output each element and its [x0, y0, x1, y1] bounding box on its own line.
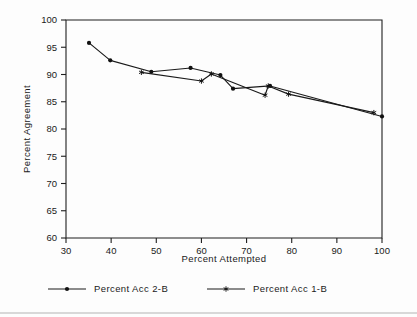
data-series-group — [87, 41, 384, 119]
y-tick-label: 100 — [41, 14, 57, 25]
x-tick-label: 80 — [286, 245, 297, 256]
y-tick-label: 70 — [46, 178, 57, 189]
line-chart: 6065707580859095100 30405060708090100 Pe… — [0, 0, 417, 317]
data-point-marker-dot — [108, 58, 112, 62]
y-axis-title: Percent Agreement — [21, 85, 32, 173]
data-point-marker-dot — [188, 66, 192, 70]
legend-label: Percent Acc 2-B — [94, 283, 168, 294]
data-point-marker-dot — [87, 41, 91, 45]
data-point-marker-dot — [380, 114, 384, 118]
x-tick-label: 50 — [151, 245, 162, 256]
y-axis-ticks: 6065707580859095100 — [41, 14, 66, 243]
series-2 — [139, 70, 376, 116]
series-1 — [87, 41, 384, 119]
y-tick-label: 90 — [46, 69, 57, 80]
x-tick-label: 40 — [106, 245, 117, 256]
series-line — [141, 72, 373, 112]
y-tick-label: 75 — [46, 151, 57, 162]
chart-legend: Percent Acc 2-BPercent Acc 1-B — [48, 283, 327, 294]
x-tick-label: 90 — [332, 245, 343, 256]
legend-item-1[interactable]: Percent Acc 2-B — [48, 283, 168, 294]
legend-item-2[interactable]: Percent Acc 1-B — [207, 283, 327, 294]
data-point-marker-star — [263, 93, 268, 98]
chart-figure: 6065707580859095100 30405060708090100 Pe… — [0, 0, 417, 317]
y-tick-label: 60 — [46, 232, 57, 243]
y-tick-label: 80 — [46, 123, 57, 134]
data-point-marker-dot — [65, 287, 69, 291]
x-tick-label: 100 — [374, 245, 390, 256]
y-tick-label: 95 — [46, 42, 57, 53]
y-tick-label: 85 — [46, 96, 57, 107]
x-axis-title: Percent Attempted — [182, 253, 267, 264]
y-tick-label: 65 — [46, 205, 57, 216]
legend-label: Percent Acc 1-B — [253, 283, 327, 294]
plot-frame — [66, 20, 382, 238]
x-tick-label: 30 — [61, 245, 72, 256]
data-point-marker-dot — [231, 87, 235, 91]
